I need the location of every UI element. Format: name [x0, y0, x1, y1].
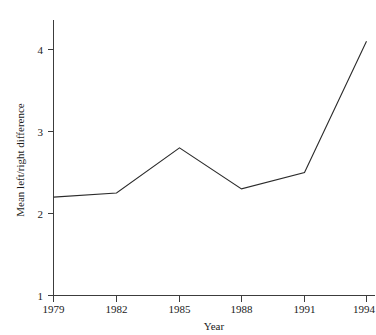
- y-tick-label-4: 4: [38, 44, 44, 56]
- x-tick-label-1979: 1979: [43, 303, 66, 315]
- x-tick-label-1991: 1991: [294, 303, 316, 315]
- y-axis-tick-labels: 1 2 3 4: [38, 44, 44, 302]
- x-tick-label-1994: 1994: [353, 303, 376, 315]
- y-tick-label-3: 3: [38, 126, 44, 138]
- y-axis-title: Mean left/right difference: [14, 103, 26, 217]
- y-tick-label-2: 2: [38, 208, 44, 220]
- y-axis-ticks: [48, 50, 54, 296]
- data-series-line: [54, 41, 367, 197]
- line-chart-svg: 1 2 3 4 1979 1982 1985 1988 1991 1994 Ye…: [0, 0, 376, 335]
- y-tick-label-1: 1: [38, 290, 44, 302]
- chart-figure: 1 2 3 4 1979 1982 1985 1988 1991 1994 Ye…: [0, 0, 376, 335]
- x-tick-label-1988: 1988: [231, 303, 254, 315]
- x-axis-title: Year: [204, 320, 225, 332]
- x-tick-label-1982: 1982: [106, 303, 128, 315]
- x-tick-label-1985: 1985: [169, 303, 192, 315]
- x-axis-ticks: [54, 296, 367, 302]
- x-axis-tick-labels: 1979 1982 1985 1988 1991 1994: [43, 303, 376, 315]
